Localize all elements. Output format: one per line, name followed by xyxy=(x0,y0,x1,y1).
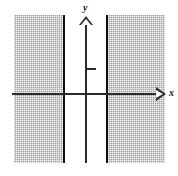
boundary-line-left xyxy=(63,15,65,163)
boundary-line-right xyxy=(106,15,108,163)
y-axis xyxy=(85,24,87,163)
shaded-region-left xyxy=(14,15,65,163)
x-axis-label: x xyxy=(169,88,174,98)
y-axis-label: y xyxy=(83,3,87,13)
arrow-right-icon xyxy=(156,87,166,101)
graph-figure: y x xyxy=(0,0,178,176)
y-axis-tick xyxy=(87,68,96,70)
arrow-up-icon xyxy=(79,16,93,25)
